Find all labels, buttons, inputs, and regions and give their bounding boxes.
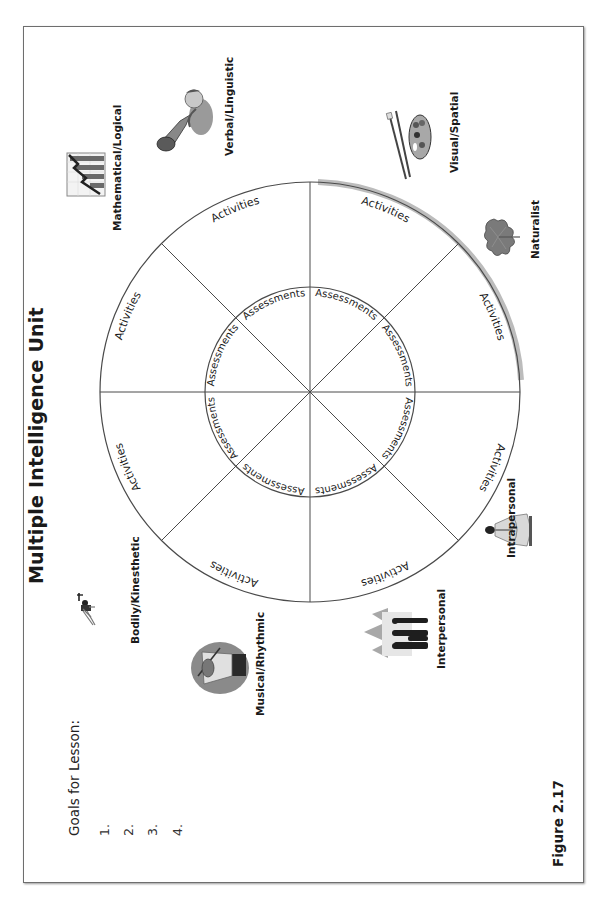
goals-heading: Goals for Lesson: bbox=[66, 720, 82, 836]
assessments-label-6: Assessments bbox=[205, 397, 240, 462]
assessments-label-8: Assessments bbox=[240, 287, 305, 322]
label-mathematical-logical: Mathematical/Logical bbox=[111, 105, 123, 231]
label-bodily-kinesthetic: Bodily/Kinesthetic bbox=[129, 536, 141, 644]
assessments-label-1: Assessments bbox=[315, 287, 380, 322]
activities-label-4: Activities bbox=[359, 559, 411, 590]
assessments-label-4: Assessments bbox=[315, 462, 380, 497]
weightlifter-icon bbox=[75, 591, 97, 627]
wheel-shadow bbox=[318, 182, 521, 380]
megaphone-icon bbox=[156, 87, 216, 153]
label-intrapersonal: Intrapersonal bbox=[505, 478, 517, 558]
intelligence-wheel: ActivitiesActivitiesActivitiesActivities… bbox=[0, 0, 607, 908]
figure-label: Figure 2.17 bbox=[550, 780, 566, 867]
activities-label-6: Activities bbox=[112, 441, 143, 493]
activities-label-5: Activities bbox=[207, 558, 259, 590]
activities-label-2: Activities bbox=[477, 290, 508, 342]
assessments-label-3: Assessments bbox=[380, 397, 415, 462]
leaf-icon bbox=[480, 215, 522, 261]
activities-label-3: Activities bbox=[476, 442, 508, 494]
sector-dividers bbox=[100, 182, 520, 602]
group-people-icon bbox=[364, 606, 434, 662]
label-musical-rhythmic: Musical/Rhythmic bbox=[254, 612, 266, 716]
bar-chart-icon bbox=[66, 152, 108, 198]
activities-label-8: Activities bbox=[209, 194, 261, 225]
assessments-label-5: Assessments bbox=[240, 462, 305, 497]
assessments-label-7: Assessments bbox=[205, 322, 240, 387]
paint-palette-icon bbox=[384, 107, 436, 181]
label-verbal-linguistic: Verbal/Linguistic bbox=[223, 57, 235, 156]
violinist-icon bbox=[190, 640, 252, 696]
label-naturalist: Naturalist bbox=[529, 200, 541, 259]
goal-item-4: 4. bbox=[170, 824, 185, 836]
label-interpersonal: Interpersonal bbox=[435, 589, 447, 669]
goal-item-1: 1. bbox=[97, 824, 112, 836]
assessments-label-2: Assessments bbox=[380, 322, 415, 387]
activities-label-7: Activities bbox=[112, 289, 144, 341]
goal-item-3: 3. bbox=[145, 824, 160, 836]
label-visual-spatial: Visual/Spatial bbox=[448, 92, 460, 173]
goal-item-2: 2. bbox=[121, 824, 136, 836]
